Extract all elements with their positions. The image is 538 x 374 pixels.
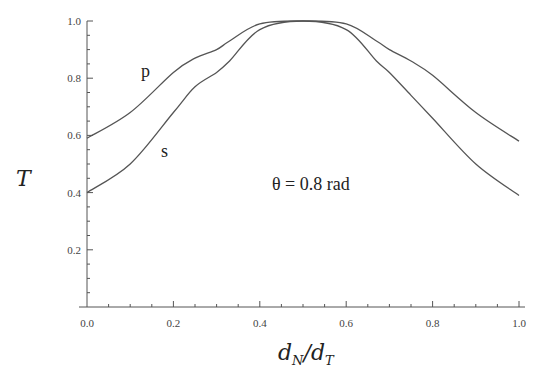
x-tick-label: 0.2 — [167, 317, 181, 329]
y-axis-label: T — [16, 166, 33, 191]
curve-p — [87, 21, 519, 141]
curve-s — [87, 21, 519, 195]
theta-annotation: θ = 0.8 rad — [272, 174, 350, 194]
y-tick-label: 1.0 — [67, 15, 81, 27]
curves — [87, 21, 519, 195]
x-tick-label: 0.6 — [339, 317, 353, 329]
curve-label-p: p — [141, 61, 150, 81]
y-tick-label: 0.6 — [67, 129, 81, 141]
y-tick-label: 0.2 — [67, 244, 81, 256]
axes: 0.20.40.60.81.00.00.20.40.60.81.0 — [67, 15, 526, 329]
y-tick-label: 0.8 — [67, 72, 81, 84]
curve-label-s: s — [161, 141, 168, 161]
x-tick-label: 1.0 — [512, 317, 526, 329]
y-tick-label: 0.4 — [67, 187, 81, 199]
transmission-chart: 0.20.40.60.81.00.00.20.40.60.81.0 T dN/d… — [0, 0, 538, 374]
x-tick-label: 0.4 — [253, 317, 267, 329]
x-tick-label: 0.8 — [426, 317, 440, 329]
x-tick-label: 0.0 — [80, 317, 94, 329]
x-axis-label: dN/dT — [278, 340, 335, 368]
